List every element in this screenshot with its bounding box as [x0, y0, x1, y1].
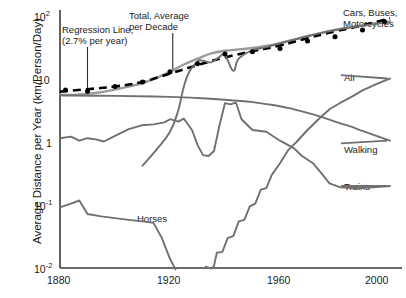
regression-data-point	[63, 88, 68, 93]
regression-data-point	[113, 84, 118, 89]
regression-data-point	[195, 61, 200, 66]
regression-data-point	[382, 19, 387, 24]
regression-data-point	[85, 89, 90, 94]
regression-data-point	[140, 79, 145, 84]
series-line-cars-buses-motorcycles	[143, 22, 391, 165]
series-line-horses	[60, 201, 176, 270]
regression-data-point	[305, 39, 310, 44]
regression-data-point	[360, 28, 365, 33]
regression-data-point	[223, 51, 228, 56]
regression-data-point	[278, 46, 283, 51]
walking-label-connector	[341, 141, 387, 144]
series-line-air	[206, 79, 390, 269]
chart-figure: Average Distance per Year (km/Person/Day…	[0, 0, 406, 298]
air-label-connector	[341, 75, 387, 78]
regression-data-point	[250, 49, 255, 54]
regression-data-point	[168, 69, 173, 74]
regression-data-point	[333, 34, 338, 39]
chart-plot-area	[0, 0, 406, 298]
series-line-trains	[60, 103, 390, 189]
